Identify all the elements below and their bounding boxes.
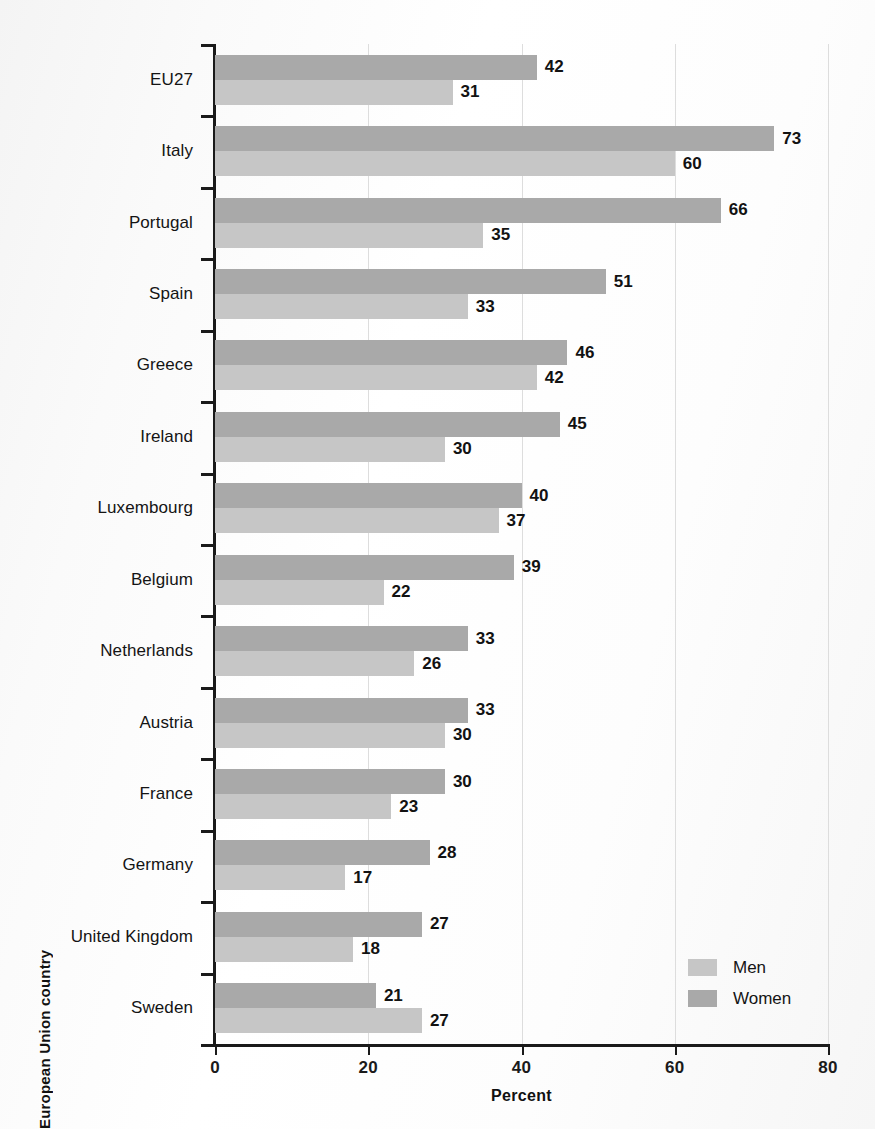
- plot-area: EU274231Italy7360Portugal6635Spain5133Gr…: [215, 44, 828, 1044]
- category-label-sweden: Sweden: [0, 998, 193, 1018]
- y-tick-5: [201, 401, 215, 404]
- x-tick-label-80: 80: [798, 1058, 858, 1078]
- bar-group: Luxembourg4037: [215, 483, 828, 533]
- bar-value-label: 42: [545, 57, 564, 77]
- bar-value-label: 18: [361, 939, 380, 959]
- bar-women-italy[interactable]: 73: [215, 126, 774, 151]
- y-tick-3: [201, 258, 215, 261]
- legend-item-men[interactable]: Men: [688, 952, 838, 983]
- bar-value-label: 42: [545, 368, 564, 388]
- bar-value-label: 40: [530, 486, 549, 506]
- bar-women-netherlands[interactable]: 33: [215, 626, 468, 651]
- bar-men-luxembourg[interactable]: 37: [215, 508, 499, 533]
- bar-value-label: 30: [453, 772, 472, 792]
- bar-value-label: 45: [568, 414, 587, 434]
- x-tick-label-20: 20: [338, 1058, 398, 1078]
- bar-men-italy[interactable]: 60: [215, 151, 675, 176]
- bar-group: Germany2817: [215, 840, 828, 890]
- category-label-italy: Italy: [0, 141, 193, 161]
- y-tick-8: [201, 615, 215, 618]
- gridline-20: [368, 44, 369, 1044]
- bar-women-greece[interactable]: 46: [215, 340, 567, 365]
- y-tick-6: [201, 473, 215, 476]
- bar-women-ireland[interactable]: 45: [215, 412, 560, 437]
- bar-men-austria[interactable]: 30: [215, 723, 445, 748]
- bar-group: France3023: [215, 769, 828, 819]
- bar-group: Italy7360: [215, 126, 828, 176]
- category-label-france: France: [0, 784, 193, 804]
- bar-value-label: 35: [491, 225, 510, 245]
- bar-value-label: 46: [575, 343, 594, 363]
- bar-men-united-kingdom[interactable]: 18: [215, 937, 353, 962]
- bar-value-label: 51: [614, 272, 633, 292]
- bar-value-label: 28: [438, 843, 457, 863]
- y-tick-10: [201, 758, 215, 761]
- bar-women-sweden[interactable]: 21: [215, 983, 376, 1008]
- bar-women-luxembourg[interactable]: 40: [215, 483, 522, 508]
- legend-item-women[interactable]: Women: [688, 983, 838, 1014]
- bar-group: Belgium3922: [215, 555, 828, 605]
- x-tick-label-60: 60: [645, 1058, 705, 1078]
- bar-men-sweden[interactable]: 27: [215, 1008, 422, 1033]
- category-label-greece: Greece: [0, 355, 193, 375]
- bar-value-label: 31: [461, 82, 480, 102]
- bar-women-united-kingdom[interactable]: 27: [215, 912, 422, 937]
- category-label-portugal: Portugal: [0, 213, 193, 233]
- bar-men-greece[interactable]: 42: [215, 365, 537, 390]
- bar-group: EU274231: [215, 55, 828, 105]
- bar-value-label: 23: [399, 797, 418, 817]
- y-tick-14: [201, 1044, 215, 1047]
- bar-women-spain[interactable]: 51: [215, 269, 606, 294]
- legend-swatch-women: [688, 990, 717, 1007]
- bar-group: Austria3330: [215, 698, 828, 748]
- x-tick-80: [828, 1044, 830, 1055]
- bar-men-germany[interactable]: 17: [215, 865, 345, 890]
- bar-men-eu27[interactable]: 31: [215, 80, 453, 105]
- bar-value-label: 27: [430, 1011, 449, 1031]
- bar-group: Portugal6635: [215, 198, 828, 248]
- bar-value-label: 17: [353, 868, 372, 888]
- x-tick-label-40: 40: [492, 1058, 552, 1078]
- bar-women-france[interactable]: 30: [215, 769, 445, 794]
- bar-value-label: 33: [476, 297, 495, 317]
- category-label-united-kingdom: United Kingdom: [0, 927, 193, 947]
- bar-men-spain[interactable]: 33: [215, 294, 468, 319]
- x-tick-label-0: 0: [185, 1058, 245, 1078]
- bar-men-netherlands[interactable]: 26: [215, 651, 414, 676]
- chart-page: European Union country EU274231Italy7360…: [0, 0, 875, 1129]
- bar-men-france[interactable]: 23: [215, 794, 391, 819]
- y-tick-13: [201, 973, 215, 976]
- y-axis-title: European Union country: [36, 0, 53, 1129]
- bar-value-label: 22: [392, 582, 411, 602]
- category-label-belgium: Belgium: [0, 570, 193, 590]
- x-tick-40: [522, 1044, 524, 1055]
- bar-value-label: 26: [422, 654, 441, 674]
- gridline-60: [675, 44, 676, 1044]
- bar-group: Netherlands3326: [215, 626, 828, 676]
- x-axis-title: Percent: [215, 1087, 828, 1105]
- bar-women-germany[interactable]: 28: [215, 840, 430, 865]
- category-label-germany: Germany: [0, 855, 193, 875]
- bar-women-belgium[interactable]: 39: [215, 555, 514, 580]
- y-tick-4: [201, 330, 215, 333]
- bar-value-label: 33: [476, 629, 495, 649]
- bar-value-label: 60: [683, 154, 702, 174]
- legend-swatch-men: [688, 959, 717, 976]
- bar-group: Spain5133: [215, 269, 828, 319]
- bar-value-label: 21: [384, 986, 403, 1006]
- bar-women-portugal[interactable]: 66: [215, 198, 721, 223]
- bar-women-eu27[interactable]: 42: [215, 55, 537, 80]
- bar-men-portugal[interactable]: 35: [215, 223, 483, 248]
- bar-women-austria[interactable]: 33: [215, 698, 468, 723]
- category-label-luxembourg: Luxembourg: [0, 498, 193, 518]
- y-tick-7: [201, 544, 215, 547]
- bar-men-belgium[interactable]: 22: [215, 580, 384, 605]
- y-tick-1: [201, 115, 215, 118]
- x-tick-20: [368, 1044, 370, 1055]
- gridline-80: [828, 44, 829, 1044]
- category-label-ireland: Ireland: [0, 427, 193, 447]
- bar-group: Greece4642: [215, 340, 828, 390]
- y-tick-12: [201, 901, 215, 904]
- bar-men-ireland[interactable]: 30: [215, 437, 445, 462]
- category-label-eu27: EU27: [0, 70, 193, 90]
